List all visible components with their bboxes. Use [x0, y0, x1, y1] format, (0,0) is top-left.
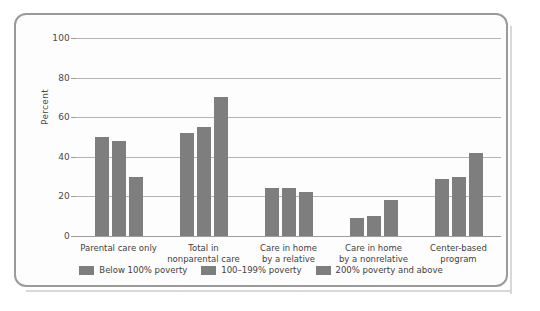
- y-tick-label-100: 100: [52, 33, 70, 43]
- x-axis-category-label: Center-basedprogram: [430, 243, 487, 265]
- bar[interactable]: [282, 188, 296, 236]
- x-axis-category-line: by a relative: [260, 254, 317, 265]
- y-tick-label-20: 20: [58, 191, 70, 201]
- chart-legend: Below 100% poverty100–199% poverty200% p…: [14, 265, 508, 275]
- frame-shadow-right: [510, 26, 512, 294]
- bar[interactable]: [112, 141, 126, 236]
- bar[interactable]: [299, 192, 313, 236]
- bar-group: Parental care only: [76, 38, 161, 236]
- bar-group: Center-basedprogram: [416, 38, 501, 236]
- y-axis-label: Percent: [40, 89, 50, 125]
- bar-group-bars: [331, 38, 416, 236]
- bar-group: Care in homeby a relative: [246, 38, 331, 236]
- gridline-0: [76, 236, 501, 237]
- bar-group-bars: [76, 38, 161, 236]
- bar[interactable]: [180, 133, 194, 236]
- y-tick-label-0: 0: [64, 231, 70, 241]
- legend-swatch-icon: [201, 266, 216, 275]
- bar[interactable]: [384, 200, 398, 236]
- legend-swatch-icon: [316, 266, 331, 275]
- legend-label: 100–199% poverty: [221, 265, 301, 275]
- bar[interactable]: [265, 188, 279, 236]
- x-axis-category-label: Care in homeby a relative: [260, 243, 317, 265]
- bar[interactable]: [350, 218, 364, 236]
- x-axis-category-line: Care in home: [260, 243, 317, 254]
- bar-group-bars: [246, 38, 331, 236]
- bar[interactable]: [452, 177, 466, 236]
- x-axis-category-line: Parental care only: [80, 243, 157, 254]
- bar-group: Total innonparental care: [161, 38, 246, 236]
- x-axis-category-label: Care in homeby a nonrelative: [339, 243, 408, 265]
- bar[interactable]: [367, 216, 381, 236]
- x-axis-category-line: nonparental care: [167, 254, 240, 265]
- y-tick-mark-0: [71, 236, 76, 237]
- x-axis-category-line: Care in home: [339, 243, 408, 254]
- legend-label: Below 100% poverty: [99, 265, 187, 275]
- plot-area: 020406080100Parental care onlyTotal inno…: [76, 38, 501, 236]
- bar-group-bars: [161, 38, 246, 236]
- legend-label: 200% poverty and above: [336, 265, 443, 275]
- x-axis-category-line: by a nonrelative: [339, 254, 408, 265]
- x-axis-category-label: Total innonparental care: [167, 243, 240, 265]
- frame-shadow-bottom: [26, 290, 510, 292]
- bar[interactable]: [469, 153, 483, 236]
- bar[interactable]: [95, 137, 109, 236]
- bar[interactable]: [129, 177, 143, 236]
- bar-chart: Percent 020406080100Parental care onlyTo…: [14, 13, 508, 287]
- y-tick-label-80: 80: [58, 73, 70, 83]
- x-axis-category-label: Parental care only: [80, 243, 157, 254]
- bar-group-bars: [416, 38, 501, 236]
- legend-item[interactable]: 200% poverty and above: [316, 265, 443, 275]
- y-tick-label-60: 60: [58, 112, 70, 122]
- bar-group: Care in homeby a nonrelative: [331, 38, 416, 236]
- legend-item[interactable]: 100–199% poverty: [201, 265, 301, 275]
- legend-swatch-icon: [79, 266, 94, 275]
- x-axis-category-line: Center-based: [430, 243, 487, 254]
- y-tick-label-40: 40: [58, 152, 70, 162]
- x-axis-category-line: Total in: [167, 243, 240, 254]
- bar[interactable]: [214, 97, 228, 236]
- bar[interactable]: [197, 127, 211, 236]
- x-axis-category-line: program: [430, 254, 487, 265]
- bar[interactable]: [435, 179, 449, 236]
- legend-item[interactable]: Below 100% poverty: [79, 265, 187, 275]
